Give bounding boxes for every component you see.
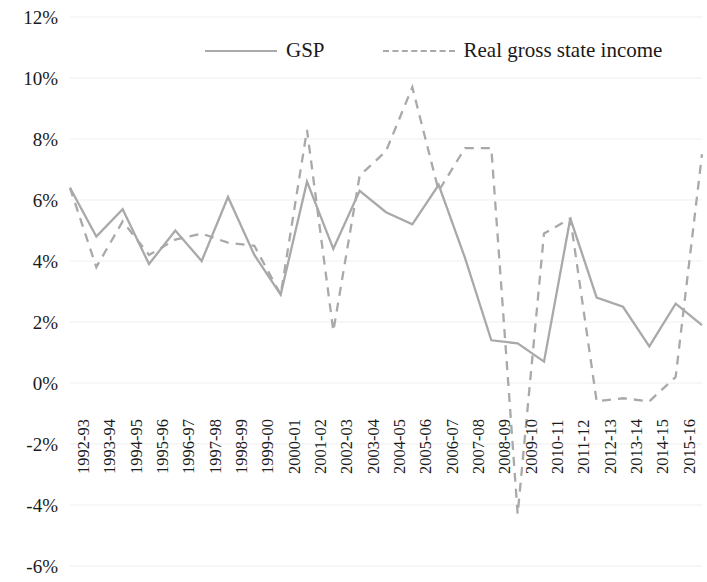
x-axis-tick-label: 2007-08 [471,419,488,474]
chart-legend: GSP Real gross state income [205,38,662,63]
x-axis-tick-label: 2010-11 [550,420,567,474]
chart-plot-area [0,0,707,582]
x-axis-tick-label: 1993-94 [102,419,119,474]
x-axis-tick-label: 2003-04 [366,419,383,474]
x-axis-tick-label: 1999-00 [260,419,277,474]
x-axis-tick-label: 2015-16 [682,419,699,474]
x-axis-tick-label: 2006-07 [445,419,462,474]
x-axis-tick-label: 1997-98 [208,419,225,474]
x-axis-tick-label: 1992-93 [76,419,93,474]
y-axis-tick-label: 10% [2,69,58,88]
legend-label-real-gross-state-income: Real gross state income [464,38,663,63]
chart-container: GSP Real gross state income 12%10%8%6%4%… [0,0,707,582]
x-axis-tick-label: 2005-06 [418,419,435,474]
x-axis-tick-label: 1996-97 [181,419,198,474]
x-axis-tick-label: 2008-09 [497,419,514,474]
x-axis-tick-label: 2013-14 [629,419,646,474]
legend-item-gsp: GSP [205,38,325,63]
x-axis-tick-label: 2009-10 [524,419,541,474]
x-axis-tick-label: 1998-99 [234,419,251,474]
x-axis-tick-label: 2001-02 [313,419,330,474]
x-axis-tick-label: 2011-12 [576,420,593,474]
y-axis-tick-label: 6% [2,191,58,210]
series-line-gsp [70,182,702,362]
x-axis-tick-label: 2002-03 [339,419,356,474]
y-axis-tick-label: 12% [2,8,58,27]
x-axis-tick-label: 2014-15 [655,419,672,474]
x-axis-tick-label: 2012-13 [603,419,620,474]
x-axis-tick-label: 1995-96 [155,419,172,474]
x-axis-tick-label: 1994-95 [129,419,146,474]
y-axis-tick-label: -4% [2,496,58,515]
y-axis-tick-label: 8% [2,130,58,149]
y-axis-tick-label: 2% [2,313,58,332]
legend-line-solid-icon [205,50,277,52]
x-axis-tick-label: 2004-05 [392,419,409,474]
legend-line-dashed-icon [383,50,455,52]
y-axis-tick-label: 0% [2,374,58,393]
legend-label-gsp: GSP [286,38,325,63]
x-axis-tick-label: 2000-01 [287,419,304,474]
y-axis-tick-label: -6% [2,557,58,576]
legend-item-real-gross-state-income: Real gross state income [383,38,663,63]
y-axis-tick-label: 4% [2,252,58,271]
y-axis-tick-label: -2% [2,435,58,454]
